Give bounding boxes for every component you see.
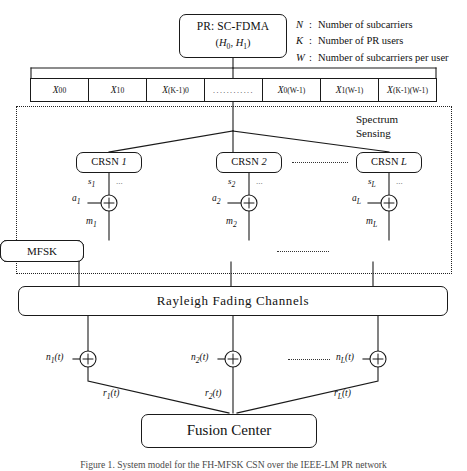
legend-symbol-n: N bbox=[296, 17, 309, 33]
crsn-node-1: CRSN 1 bbox=[76, 152, 142, 173]
pr-block-hypotheses: (H0, H1) bbox=[215, 37, 250, 52]
noise-ellipsis-connector bbox=[288, 359, 330, 360]
crsn-node-2: CRSN 2 bbox=[216, 152, 282, 173]
subcarrier-allocation-row: X00 X10 X(K-1)0 ............ X0(W-1) X1(… bbox=[30, 78, 437, 102]
wire-rL-to-fusion bbox=[237, 366, 378, 413]
noise-adder-circle-2 bbox=[225, 351, 241, 367]
label-nL: nL(t) bbox=[336, 352, 354, 365]
label-s1-dots: ... bbox=[116, 176, 123, 186]
legend-symbol-w: W bbox=[296, 50, 309, 66]
pr-sc-fdma-block: PR: SC-FDMA (H0, H1) bbox=[179, 14, 287, 58]
label-r1: r1(t) bbox=[103, 388, 119, 401]
mfsk-ellipsis-connector bbox=[277, 251, 329, 252]
label-n2: n2(t) bbox=[191, 352, 209, 365]
label-rL: rL(t) bbox=[334, 388, 351, 401]
legend-item-w: W : Number of subcarriers per user bbox=[296, 50, 467, 66]
label-n1: n1(t) bbox=[46, 352, 64, 365]
pr-block-title: PR: SC-FDMA bbox=[197, 20, 269, 33]
legend-text-w: Number of subcarriers per user bbox=[318, 50, 449, 66]
legend-colon-k: : bbox=[309, 33, 318, 49]
label-m2: m2 bbox=[226, 216, 237, 229]
hypothesis-h0: H bbox=[219, 37, 227, 48]
label-m1: m1 bbox=[86, 216, 97, 229]
legend-text-n: Number of subcarriers bbox=[318, 17, 412, 33]
noise-adder-circle-3 bbox=[370, 351, 386, 367]
legend-item-n: N : Number of subcarriers bbox=[296, 17, 467, 33]
label-s1: s1 bbox=[88, 176, 95, 189]
subcarrier-cell-x1w1: X1(W-1) bbox=[321, 79, 379, 101]
legend-colon-n: : bbox=[309, 17, 318, 33]
crsn-node-L: CRSN L bbox=[356, 152, 422, 173]
label-mL: mL bbox=[366, 216, 377, 229]
spectrum-sensing-label: Spectrum Sensing bbox=[356, 112, 448, 141]
noise-adder-circle-1 bbox=[80, 351, 96, 367]
figure-canvas: PR: SC-FDMA (H0, H1) N : Number of subca… bbox=[0, 0, 467, 471]
legend-item-k: K : Number of PR users bbox=[296, 33, 467, 49]
label-sL-dots: ... bbox=[396, 176, 403, 186]
subcarrier-cell-xk10: X(K-1)0 bbox=[147, 79, 205, 101]
legend-symbol-k: K bbox=[296, 33, 309, 49]
crsn-ellipsis-connector bbox=[292, 162, 348, 163]
figure-caption: Figure 1. System model for the FH-MFSK C… bbox=[0, 459, 467, 470]
spectrum-sensing-label-line1: Spectrum bbox=[356, 112, 448, 126]
mfsk-block-3: MFSK bbox=[0, 240, 84, 262]
subcarrier-cell-ellipsis: ............ bbox=[205, 79, 263, 101]
label-s2-dots: ... bbox=[256, 176, 263, 186]
subcarrier-cell-x0w1: X0(W-1) bbox=[263, 79, 321, 101]
label-s2: s2 bbox=[228, 176, 235, 189]
label-a1: a1 bbox=[72, 193, 81, 206]
legend-text-k: Number of PR users bbox=[318, 33, 403, 49]
spectrum-sensing-label-line2: Sensing bbox=[356, 126, 448, 140]
label-r2: r2(t) bbox=[205, 388, 221, 401]
legend: N : Number of subcarriers K : Number of … bbox=[296, 17, 467, 66]
subcarrier-cell-x10: X10 bbox=[89, 79, 147, 101]
subcarrier-cell-xk1w1: X(K-1)(W-1) bbox=[379, 79, 436, 101]
legend-colon-w: : bbox=[309, 50, 318, 66]
label-sL: sL bbox=[368, 176, 376, 189]
label-aL: aL bbox=[352, 193, 361, 206]
label-a2: a2 bbox=[212, 193, 221, 206]
rayleigh-fading-channels-block: Rayleigh Fading Channels bbox=[18, 286, 448, 316]
fusion-center-block: Fusion Center bbox=[141, 414, 317, 448]
subcarrier-cell-x00: X00 bbox=[31, 79, 89, 101]
